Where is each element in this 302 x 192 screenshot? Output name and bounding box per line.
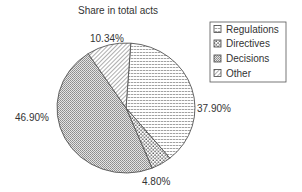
- legend-label-decisions: Decisions: [226, 53, 269, 64]
- chart-title: Share in total acts: [78, 5, 158, 16]
- slice-label-decisions: 46.90%: [15, 112, 49, 123]
- legend-item-other: Other: [214, 68, 252, 79]
- legend-swatch-directives: [214, 40, 221, 47]
- legend-swatch-regulations: [214, 26, 221, 33]
- pie-chart: Share in total acts 37.90% 4.80% 46.90% …: [0, 0, 302, 192]
- legend: Regulations Directives Decisions Other: [210, 22, 286, 82]
- legend-swatch-decisions: [214, 55, 221, 62]
- slice-label-regulations: 37.90%: [197, 103, 231, 114]
- legend-label-other: Other: [226, 68, 252, 79]
- pie-slices: [57, 43, 195, 173]
- slice-label-directives: 4.80%: [142, 176, 170, 187]
- legend-label-regulations: Regulations: [226, 24, 279, 35]
- slice-label-other: 10.34%: [90, 33, 124, 44]
- legend-swatch-other: [214, 70, 221, 77]
- legend-label-directives: Directives: [226, 38, 270, 49]
